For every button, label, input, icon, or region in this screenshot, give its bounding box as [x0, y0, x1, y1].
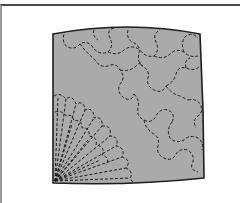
quilt-illustration	[0, 0, 240, 203]
quilt-panel	[53, 27, 204, 184]
